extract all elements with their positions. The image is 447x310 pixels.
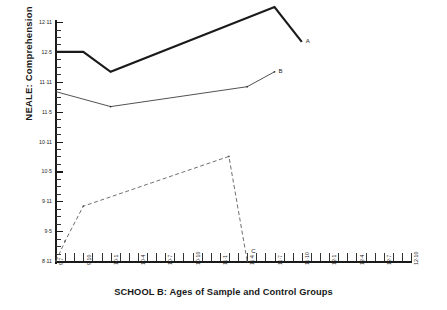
series-label-a: A: [306, 38, 310, 44]
series-point: [64, 240, 66, 242]
series-point: [246, 86, 248, 88]
chart-title: SCHOOL B: Ages of Sample and Control Gro…: [0, 287, 447, 297]
series-point: [274, 71, 276, 73]
series-point: [55, 91, 57, 93]
series-label-c: C: [251, 248, 255, 254]
series-plot-area: [0, 0, 447, 310]
series-point: [228, 156, 230, 158]
series-line-c: [56, 156, 247, 261]
chart-figure: NEALE: Comprehension 8·119·59·1110·510·1…: [0, 0, 447, 310]
series-point: [55, 260, 57, 262]
series-point: [246, 260, 248, 262]
series-point: [110, 106, 112, 108]
series-point: [82, 205, 84, 207]
series-line-a: [56, 7, 302, 72]
series-label-b: B: [279, 68, 283, 74]
series-line-b: [56, 72, 275, 107]
